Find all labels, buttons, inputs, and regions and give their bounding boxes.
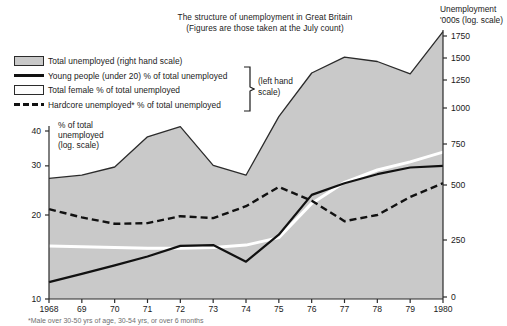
right-tick-label: 1000 — [451, 103, 485, 113]
x-tick-label: 1968 — [32, 304, 66, 314]
x-tick-label: 76 — [295, 304, 329, 314]
right-tick-label: 250 — [451, 235, 485, 245]
plot-area — [0, 0, 507, 326]
x-tick-label: 77 — [328, 304, 362, 314]
left-tick-label: 10 — [15, 294, 41, 304]
right-tick-label: 1500 — [451, 53, 485, 63]
chart-footnote: *Male over 30-50 yrs of age, 30-54 yrs, … — [28, 317, 203, 324]
right-tick-label: 500 — [451, 180, 485, 190]
x-tick-label: 70 — [98, 304, 132, 314]
x-tick-label: 75 — [262, 304, 296, 314]
right-tick-label: 750 — [451, 139, 485, 149]
series-total-unemployed — [49, 32, 443, 299]
left-tick-label: 20 — [15, 210, 41, 220]
right-tick-label: 1750 — [451, 31, 485, 41]
x-tick-label: 71 — [131, 304, 165, 314]
x-tick-label: 1980 — [426, 304, 460, 314]
x-tick-label: 79 — [393, 304, 427, 314]
x-tick-label: 69 — [65, 304, 99, 314]
left-tick-label: 40 — [15, 126, 41, 136]
right-tick-label: 1250 — [451, 75, 485, 85]
left-tick-label: 30 — [15, 160, 41, 170]
x-tick-label: 78 — [360, 304, 394, 314]
chart-root: The structure of unemployment in Great B… — [0, 0, 507, 326]
x-tick-label: 74 — [229, 304, 263, 314]
x-tick-label: 73 — [196, 304, 230, 314]
right-tick-label: 0 — [451, 292, 485, 302]
x-tick-label: 72 — [163, 304, 197, 314]
